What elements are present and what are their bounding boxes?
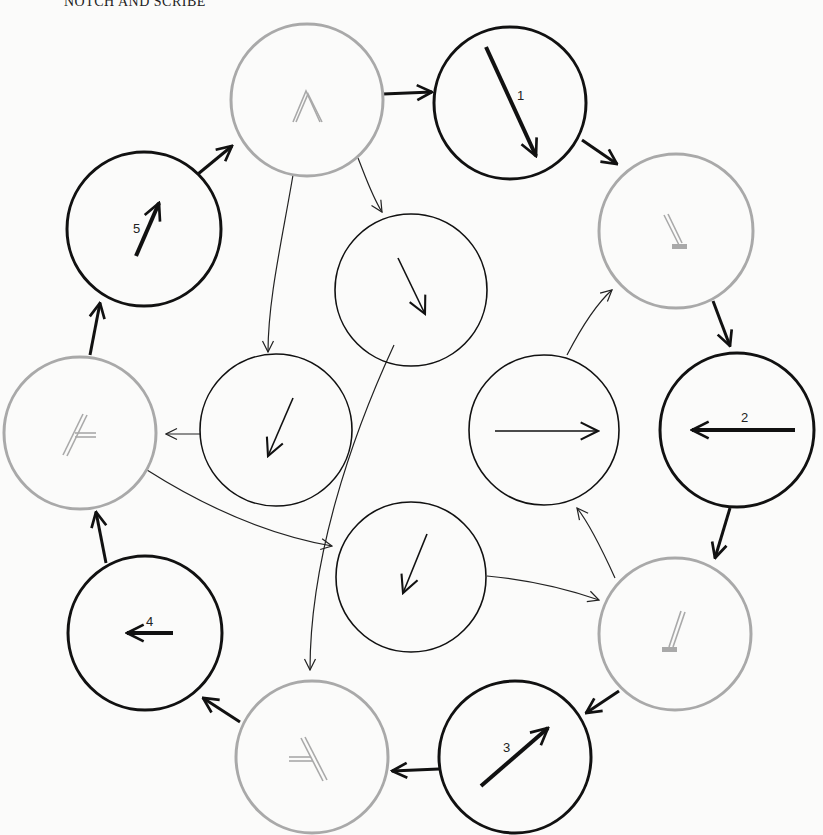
edge-1-to-grayrt [582,140,617,164]
node-3[interactable]: 3 [439,681,591,833]
edge-3-to-graybottom [392,769,439,771]
node-1[interactable]: 1 [434,27,586,179]
edge-grayrt-to-2 [713,301,730,346]
vector-arrow-icon [398,258,425,314]
branch-left-glyph-icon [63,414,96,456]
edge-2-to-grayrb [715,508,730,558]
outer-cycle-edges [90,92,730,771]
edge-innerbottom-to-grayrb [487,576,599,600]
vector-arrow-icon [486,47,536,156]
node-label: 3 [503,740,510,755]
node-label: 2 [741,410,748,425]
node-gray-right-top[interactable] [599,154,753,308]
node-inner-right[interactable] [469,355,619,505]
node-gray-bottom[interactable] [236,681,388,833]
node-inner-top[interactable] [335,214,487,366]
edge-top-to-1 [383,92,432,94]
node-2[interactable]: 2 [660,353,814,507]
edge-grayrb-to-innerright [577,508,615,578]
vector-arrow-icon [481,728,548,786]
stem-foot-glyph-icon [664,214,687,249]
vector-arrow-icon [268,398,293,456]
node-inner-bottom[interactable] [336,502,486,652]
node-gray-right-bottom[interactable] [599,558,751,710]
node-label: 5 [133,221,140,236]
node-inner-left[interactable] [200,354,352,506]
stem-foot-tilted-glyph-icon [662,611,685,652]
edge-5-to-top [198,146,232,174]
vector-arrow-icon [403,534,427,593]
node-label: 1 [517,88,524,103]
edge-graybottom-to-4 [203,698,240,722]
edge-top-to-innertop [358,158,382,212]
node-5[interactable]: 5 [67,152,221,306]
node-label: 4 [146,614,153,629]
node-top-gray[interactable] [231,24,383,176]
edge-top-to-innerleft [268,175,293,352]
edge-innerright-to-grayrt [567,290,612,355]
edge-grayrb-to-3 [586,691,619,713]
edge-grayleft-to-5 [90,303,100,355]
inner-edges [147,158,615,670]
node-4[interactable]: 4 [68,556,222,710]
caret-up-glyph-icon [293,91,322,122]
state-diagram: 1 2 3 4 5 [0,0,823,835]
edge-grayleft-to-innerbottom [147,470,332,546]
edge-4-to-grayleft [96,512,106,563]
node-gray-left[interactable] [4,357,156,509]
branch-glyph-icon [289,737,327,781]
